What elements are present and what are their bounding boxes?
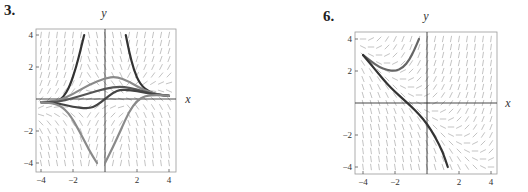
slope-segment: [490, 116, 492, 122]
slope-segment: [450, 60, 452, 66]
slope-segment: [393, 53, 398, 58]
slope-segment: [418, 52, 420, 58]
slope-segment: [473, 124, 477, 129]
slope-segment: [474, 60, 475, 66]
slope-segment: [466, 52, 467, 58]
slope-segment: [392, 62, 398, 65]
slope-segment: [442, 52, 444, 58]
slope-segment: [418, 156, 420, 162]
slope-segment: [362, 108, 363, 114]
slope-segment: [418, 44, 420, 50]
slope-segment: [394, 36, 397, 42]
slope-segment: [456, 126, 462, 129]
slope-segment: [450, 44, 451, 50]
slope-segment: [483, 52, 484, 58]
slope-segment: [466, 60, 467, 66]
slope-segment: [408, 78, 414, 81]
slope-segment: [432, 118, 438, 121]
slope-segment: [483, 44, 484, 50]
slope-segment: [466, 108, 469, 114]
slope-segment: [481, 132, 485, 137]
slope-segment: [457, 108, 461, 113]
slope-segment: [458, 52, 459, 58]
slope-segment: [378, 92, 380, 98]
slope-segment: [482, 84, 483, 90]
slope-segment: [362, 68, 365, 74]
slope-segment: [465, 157, 470, 162]
slope-segment: [361, 60, 365, 65]
slope-segment: [442, 68, 444, 74]
slope-segment: [450, 52, 451, 58]
slope-segment: [410, 148, 412, 154]
slope-segment: [386, 132, 387, 138]
slope-segment: [394, 116, 396, 122]
slope-segment: [433, 125, 438, 130]
slope-segment: [440, 126, 446, 129]
slope-segment: [394, 164, 395, 170]
slope-segment: [483, 36, 484, 42]
slope-segment: [379, 156, 380, 162]
y-tick-label: 4: [348, 34, 353, 44]
slope-segment: [472, 142, 478, 145]
slope-segment: [490, 124, 492, 130]
slope-segment: [475, 36, 476, 42]
slope-segment: [371, 156, 372, 162]
y-tick-label: −4: [342, 162, 352, 172]
slope-segment: [441, 140, 445, 145]
slope-segment: [410, 156, 411, 162]
slope-segment: [466, 44, 467, 50]
slope-segment: [481, 141, 486, 146]
slope-segment: [489, 149, 494, 154]
slope-segment: [402, 44, 405, 50]
slope-segment: [410, 36, 412, 42]
slope-segment: [418, 148, 420, 154]
slope-segment: [449, 109, 454, 114]
slope-segment: [402, 108, 405, 114]
slope-segment: [490, 84, 491, 90]
slope-segment: [370, 124, 371, 130]
slope-segment: [482, 124, 485, 130]
slope-segment: [370, 116, 371, 122]
slope-segment: [402, 36, 404, 42]
slope-segment: [482, 76, 483, 82]
slope-segment: [393, 44, 397, 49]
slope-segment: [410, 124, 412, 130]
slope-segment: [378, 108, 380, 114]
x-tick-label: 4: [489, 177, 494, 187]
x-axis-label: x: [504, 96, 511, 110]
slope-segment: [458, 164, 461, 170]
slope-segment: [458, 44, 459, 50]
y-tick-label: 2: [348, 66, 353, 76]
slope-segment: [394, 132, 396, 138]
slope-segment: [386, 148, 387, 154]
slope-segment: [418, 124, 421, 130]
slope-segment: [394, 148, 395, 154]
slope-segment: [464, 150, 470, 153]
slope-segment: [491, 36, 492, 42]
slope-segment: [456, 142, 462, 145]
slope-field-plot-6: xy−4−224−4−224: [0, 0, 528, 192]
slope-segment: [480, 150, 486, 153]
slope-segment: [417, 77, 422, 82]
slope-segment: [434, 68, 436, 74]
slope-segment: [418, 60, 421, 66]
slope-segment: [394, 108, 396, 114]
slope-segment: [433, 84, 437, 89]
slope-segment: [410, 44, 412, 50]
slope-segment: [457, 149, 462, 154]
slope-segment: [449, 148, 453, 153]
slope-segment: [464, 134, 470, 137]
slope-segment: [386, 116, 388, 122]
slope-segment: [386, 140, 387, 146]
slope-segment: [363, 156, 364, 162]
slope-segment: [370, 76, 373, 82]
slope-segment: [402, 116, 404, 122]
slope-segment: [386, 108, 388, 114]
slope-segment: [448, 134, 454, 137]
slope-segment: [442, 84, 445, 90]
slope-segment: [434, 76, 437, 82]
slope-segment: [371, 164, 372, 170]
slope-segment: [376, 62, 382, 65]
slope-segment: [362, 124, 363, 130]
slope-segment: [442, 164, 444, 170]
